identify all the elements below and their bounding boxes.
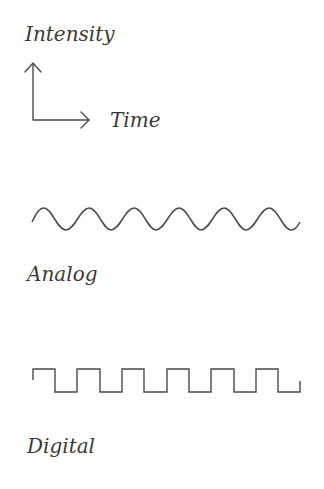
axes-icon: [25, 63, 89, 128]
signal-diagram: [0, 0, 324, 489]
digital-label: Digital: [27, 436, 95, 456]
analog-sine-wave: [32, 208, 300, 230]
digital-square-wave: [33, 369, 300, 392]
analog-label: Analog: [27, 264, 98, 284]
